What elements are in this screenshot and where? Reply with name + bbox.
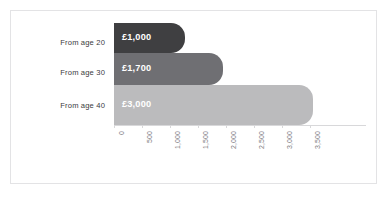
category-label-0: From age 20 bbox=[60, 39, 105, 47]
x-tick-mark-7 bbox=[310, 125, 311, 128]
x-tick-label-3: 1,500 bbox=[202, 131, 209, 149]
bar-value-label-0: £1,000 bbox=[122, 33, 151, 42]
x-axis-line bbox=[114, 125, 366, 126]
x-tick-label-6: 3,000 bbox=[286, 131, 293, 149]
x-tick-label-5: 2,500 bbox=[258, 131, 265, 149]
bar-from-age-30: £1,700 bbox=[114, 53, 223, 85]
x-tick-mark-3 bbox=[198, 125, 199, 128]
x-tick-label-0: 0 bbox=[118, 131, 125, 135]
bar-from-age-40: £3,000 bbox=[114, 85, 313, 125]
x-tick-mark-2 bbox=[170, 125, 171, 128]
category-label-2: From age 40 bbox=[60, 102, 105, 110]
x-tick-label-7: 3,500 bbox=[314, 131, 321, 149]
x-tick-label-4: 2,000 bbox=[230, 131, 237, 149]
x-tick-mark-4 bbox=[226, 125, 227, 128]
bar-from-age-20: £1,000 bbox=[114, 23, 185, 53]
x-tick-label-2: 1,000 bbox=[174, 131, 181, 149]
x-tick-mark-1 bbox=[142, 125, 143, 128]
x-tick-mark-6 bbox=[282, 125, 283, 128]
category-label-1: From age 30 bbox=[60, 69, 105, 77]
x-tick-mark-5 bbox=[254, 125, 255, 128]
bar-value-label-1: £1,700 bbox=[122, 64, 151, 73]
x-tick-mark-0 bbox=[114, 125, 115, 128]
x-tick-label-1: 500 bbox=[146, 131, 153, 143]
bar-chart-plot-area: From age 20 From age 30 From age 40 £1,0… bbox=[11, 11, 376, 183]
bar-value-label-2: £3,000 bbox=[122, 100, 151, 109]
chart-card: From age 20 From age 30 From age 40 £1,0… bbox=[10, 10, 377, 184]
